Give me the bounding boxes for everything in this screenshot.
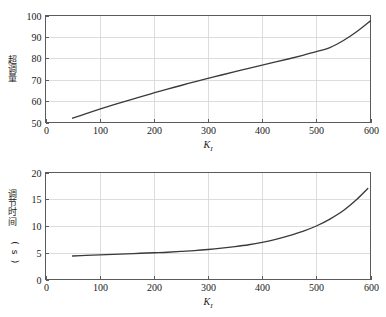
figure-container: 0100200300400500600 5060708090100 KI 超调量…: [0, 0, 386, 317]
data-curve-settling-time: [73, 189, 368, 256]
x-tick-label: 0: [44, 282, 49, 293]
y-axis-title-char: 间: [8, 216, 17, 227]
y-tick-label: 15: [32, 194, 42, 205]
gridlines-settling-time: [46, 173, 371, 280]
data-curve-overshoot: [73, 21, 371, 118]
y-axis-title-char: s: [10, 250, 20, 255]
overshoot-plot-svg: 0100200300400500600 5060708090100 KI 超调量: [0, 0, 386, 160]
x-tick-label: 400: [255, 125, 270, 136]
chart-panel-settling-time: 0100200300400500600 05101520 KI 调节时间(s): [0, 157, 386, 317]
x-axis-title-sub-top: I: [209, 145, 213, 153]
x-tick-labels-overshoot: 0100200300400500600: [44, 125, 379, 136]
y-axis-title-char: (: [10, 241, 20, 245]
x-tick-label: 200: [147, 125, 162, 136]
x-tick-labels-settling-time: 0100200300400500600: [44, 282, 379, 293]
plot-frame-settling-time: [46, 173, 371, 280]
x-tick-label: 200: [147, 282, 162, 293]
y-tick-label: 0: [37, 275, 42, 286]
y-tick-label: 10: [32, 221, 42, 232]
x-axis-title-settling-time: KI: [202, 296, 213, 310]
y-axis-title-settling-time: 调节时间(s): [8, 189, 21, 263]
settling-time-plot-svg: 0100200300400500600 05101520 KI 调节时间(s): [0, 157, 386, 317]
y-tick-label: 100: [27, 11, 42, 22]
gridlines-overshoot: [46, 16, 371, 123]
y-tick-label: 5: [37, 248, 42, 259]
y-tick-label: 80: [32, 53, 42, 64]
y-tick-label: 50: [32, 118, 42, 129]
y-tick-label: 70: [32, 75, 42, 86]
x-axis-title-overshoot: KI: [202, 139, 213, 153]
x-tick-label: 300: [201, 282, 216, 293]
chart-panel-overshoot: 0100200300400500600 5060708090100 KI 超调量: [0, 0, 386, 160]
y-tick-labels-overshoot: 5060708090100: [27, 11, 42, 129]
y-axis-title-overshoot: 超调量: [8, 54, 17, 83]
x-tick-label: 400: [255, 282, 270, 293]
x-tick-label: 600: [364, 125, 379, 136]
x-tick-label: 300: [201, 125, 216, 136]
x-tick-label: 600: [364, 282, 379, 293]
x-tick-label: 0: [44, 125, 49, 136]
x-tick-label: 100: [93, 282, 108, 293]
y-tick-label: 20: [32, 168, 42, 179]
x-tick-label: 100: [93, 125, 108, 136]
y-tick-label: 90: [32, 32, 42, 43]
x-tick-label: 500: [309, 125, 324, 136]
plot-frame-overshoot: [46, 16, 371, 123]
y-axis-title-char: ): [10, 260, 20, 264]
x-axis-title-sub-bottom: I: [209, 302, 213, 310]
x-tick-label: 500: [309, 282, 324, 293]
y-axis-title-char: 量: [8, 73, 17, 83]
y-tick-labels-settling-time: 05101520: [32, 168, 42, 286]
y-tick-label: 60: [32, 96, 42, 107]
